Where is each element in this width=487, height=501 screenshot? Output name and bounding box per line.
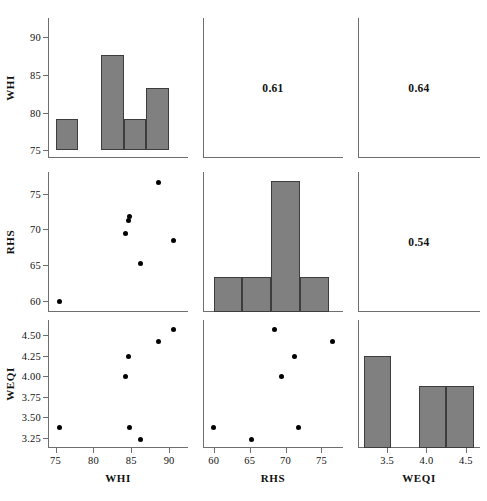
histogram-bar bbox=[101, 55, 124, 150]
data-point bbox=[330, 339, 335, 344]
panel-whi-whi: 75808590 bbox=[48, 18, 188, 158]
data-point bbox=[279, 374, 284, 379]
panel-plot-area: 3.253.503.754.004.254.5075808590 bbox=[48, 320, 188, 448]
y-tick bbox=[43, 438, 48, 439]
data-point bbox=[127, 214, 132, 219]
axis-spine-bottom bbox=[358, 157, 480, 158]
panel-rhs-rhs bbox=[203, 172, 343, 312]
panel-plot-area: 75808590 bbox=[48, 18, 188, 158]
y-tick bbox=[43, 335, 48, 336]
y-tick-label: 75 bbox=[30, 145, 41, 156]
panel-plot-area: 0.54 bbox=[358, 172, 480, 312]
axis-spine-bottom bbox=[48, 447, 188, 448]
data-point bbox=[127, 425, 132, 430]
panel-plot-area: 0.61 bbox=[203, 18, 343, 158]
axis-spine-left bbox=[358, 18, 359, 158]
correlation-whi-weqi: 0.64 bbox=[408, 82, 429, 94]
y-tick bbox=[43, 194, 48, 195]
data-point bbox=[211, 425, 216, 430]
x-tick bbox=[426, 448, 427, 453]
correlation-rhs-weqi: 0.54 bbox=[408, 236, 429, 248]
panel-plot-area: 0.64 bbox=[358, 18, 480, 158]
y-tick-label: 4.00 bbox=[22, 371, 41, 382]
axis-title-x-whi: WHI bbox=[105, 472, 131, 484]
axis-title-rhs: RHS bbox=[4, 230, 16, 254]
x-tick bbox=[387, 448, 388, 453]
y-tick bbox=[43, 301, 48, 302]
panel-weqi-rhs: 60657075 bbox=[203, 320, 343, 448]
x-tick-label: 65 bbox=[244, 455, 255, 466]
x-tick bbox=[93, 448, 94, 453]
x-tick-label: 4.0 bbox=[420, 455, 434, 466]
data-point bbox=[156, 339, 161, 344]
y-tick-label: 3.50 bbox=[22, 412, 41, 423]
axis-spine-bottom bbox=[48, 311, 188, 312]
y-tick bbox=[43, 113, 48, 114]
y-tick-label: 3.25 bbox=[22, 433, 41, 444]
data-point bbox=[249, 437, 254, 442]
y-tick-label: 70 bbox=[30, 224, 41, 235]
panel-plot-area: 60657075 bbox=[203, 320, 343, 448]
axis-spine-left bbox=[358, 172, 359, 312]
histogram-bar bbox=[214, 277, 243, 312]
x-tick bbox=[56, 448, 57, 453]
x-tick-label: 3.5 bbox=[380, 455, 394, 466]
panel-plot-area: 60657075 bbox=[48, 172, 188, 312]
y-tick bbox=[43, 229, 48, 230]
x-tick bbox=[250, 448, 251, 453]
y-tick bbox=[43, 376, 48, 377]
axis-spine-left bbox=[203, 18, 204, 158]
data-point bbox=[126, 354, 131, 359]
axis-title-x-rhs: RHS bbox=[261, 472, 285, 484]
axis-spine-left bbox=[48, 172, 49, 312]
data-point bbox=[57, 425, 62, 430]
data-point bbox=[171, 327, 176, 332]
data-point bbox=[292, 354, 297, 359]
histogram-bar bbox=[364, 356, 392, 448]
axis-spine-left bbox=[358, 320, 359, 448]
scatter-plot-matrix: WHI758085900.610.64RHS606570750.54WEQIWH… bbox=[0, 0, 487, 501]
y-tick bbox=[43, 356, 48, 357]
axis-spine-bottom bbox=[203, 157, 343, 158]
histogram-bar bbox=[242, 277, 271, 312]
y-tick bbox=[43, 397, 48, 398]
panel-whi-rhs: 0.61 bbox=[203, 18, 343, 158]
x-tick bbox=[214, 448, 215, 453]
panel-weqi-whi: 3.253.503.754.004.254.5075808590 bbox=[48, 320, 188, 448]
y-tick-label: 75 bbox=[30, 188, 41, 199]
histogram-bar bbox=[124, 119, 147, 151]
y-tick bbox=[43, 37, 48, 38]
data-point bbox=[156, 180, 161, 185]
axis-spine-left bbox=[48, 320, 49, 448]
y-tick-label: 80 bbox=[30, 107, 41, 118]
x-tick-label: 75 bbox=[50, 455, 61, 466]
axis-spine-left bbox=[203, 320, 204, 448]
panel-weqi-weqi: 3.54.04.5 bbox=[358, 320, 480, 448]
data-point bbox=[171, 238, 176, 243]
x-tick-label: 80 bbox=[88, 455, 99, 466]
axis-spine-left bbox=[203, 172, 204, 312]
y-tick bbox=[43, 75, 48, 76]
x-tick-label: 70 bbox=[280, 455, 291, 466]
data-point bbox=[296, 425, 301, 430]
histogram-bar bbox=[300, 277, 329, 312]
x-tick-label: 60 bbox=[208, 455, 219, 466]
x-tick bbox=[169, 448, 170, 453]
axis-spine-bottom bbox=[358, 311, 480, 312]
panel-whi-weqi: 0.64 bbox=[358, 18, 480, 158]
histogram-bar bbox=[446, 386, 474, 448]
data-point bbox=[57, 299, 62, 304]
panel-rhs-weqi: 0.54 bbox=[358, 172, 480, 312]
histogram-bar bbox=[271, 181, 300, 312]
x-tick bbox=[131, 448, 132, 453]
y-tick-label: 85 bbox=[30, 69, 41, 80]
histogram-bar bbox=[419, 386, 447, 448]
y-tick-label: 90 bbox=[30, 31, 41, 42]
axis-spine-bottom bbox=[48, 157, 188, 158]
x-tick-label: 75 bbox=[316, 455, 327, 466]
axis-spine-left bbox=[48, 18, 49, 158]
axis-title-weqi: WEQI bbox=[4, 367, 16, 401]
y-tick bbox=[43, 265, 48, 266]
x-tick bbox=[286, 448, 287, 453]
data-point bbox=[123, 231, 128, 236]
